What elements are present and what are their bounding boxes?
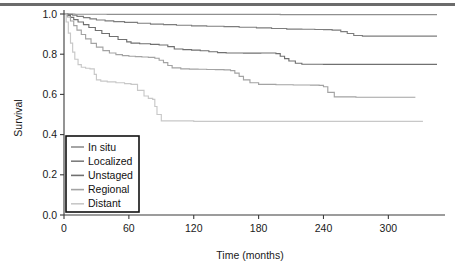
y-axis-tick-label: 0.2	[42, 168, 57, 180]
survival-curve-distant	[64, 14, 423, 121]
x-axis-tick-label: 120	[185, 222, 203, 234]
curves-group	[64, 14, 437, 121]
chart-legend[interactable]: In situLocalizedUnstagedRegionalDistant	[66, 136, 139, 212]
x-axis-tick-label: 300	[380, 222, 398, 234]
survival-chart-figure: 0.00.20.40.60.81.0060120180240300 In sit…	[0, 0, 455, 269]
x-axis-tick-label: 0	[61, 222, 67, 234]
legend-label-unstaged: Unstaged	[88, 169, 133, 181]
y-axis-tick-label: 0.0	[42, 209, 57, 221]
y-axis-tick-label: 0.4	[42, 128, 57, 140]
legend-label-localized: Localized	[88, 155, 133, 167]
legend-label-distant: Distant	[88, 197, 121, 209]
y-axis-tick-label: 0.8	[42, 48, 57, 60]
legend-label-in-situ: In situ	[88, 141, 116, 153]
x-axis-title: Time (months)	[216, 249, 283, 261]
x-axis-tick-label: 180	[250, 222, 268, 234]
y-axis-tick-label: 1.0	[42, 8, 57, 20]
x-axis-tick-label: 60	[123, 222, 135, 234]
chart-svg: 0.00.20.40.60.81.0060120180240300 In sit…	[0, 0, 455, 269]
y-axis-tick-label: 0.6	[42, 88, 57, 100]
survival-curve-localized	[64, 14, 437, 36]
legend-label-regional: Regional	[88, 183, 129, 195]
x-axis-tick-label: 240	[315, 222, 333, 234]
survival-curve-in-situ	[64, 14, 437, 15]
y-axis-title: Survival	[12, 99, 24, 136]
